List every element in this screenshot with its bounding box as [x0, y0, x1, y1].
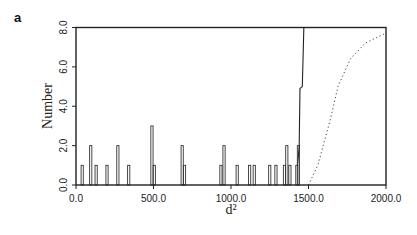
y-axis-title: Number: [40, 83, 55, 129]
histogram-bar: [283, 165, 285, 185]
y-tick-label: 2.0: [58, 138, 69, 152]
histogram-bar: [220, 165, 222, 185]
histogram-bars: [81, 126, 299, 185]
histogram-bar: [286, 146, 288, 185]
histogram-bar: [181, 146, 183, 185]
x-tick-label: 0.0: [69, 193, 83, 204]
histogram-bar: [253, 165, 255, 185]
y-tick-label: 4.0: [58, 99, 69, 113]
histogram-bar: [236, 165, 238, 185]
histogram-bar: [106, 165, 108, 185]
histogram-bar: [117, 146, 119, 185]
histogram-bar: [128, 165, 130, 185]
x-axis-title: d²: [225, 202, 236, 217]
histogram-bar: [95, 165, 97, 185]
y-tick-label: 0.0: [58, 178, 69, 192]
histogram-bar: [223, 146, 225, 185]
y-tick-label: 8.0: [58, 20, 69, 34]
histogram-bar: [289, 165, 291, 185]
histogram-bar: [153, 165, 155, 185]
histogram-bar: [269, 165, 271, 185]
histogram-bar: [183, 165, 185, 185]
histogram-bar: [275, 165, 277, 185]
x-tick-label: 1500.0: [293, 193, 324, 204]
y-axis-ticks: 0.02.04.06.08.0: [58, 20, 76, 192]
histogram-bar: [151, 126, 153, 185]
plot-frame: [76, 28, 386, 186]
observed-cumulative-line: [298, 28, 304, 166]
histogram-bar: [249, 165, 251, 185]
histogram-bar: [81, 165, 83, 185]
x-tick-label: 2000.0: [371, 193, 402, 204]
expected-distribution-curve: [309, 33, 386, 185]
histogram-chart: 0.0500.01000.01500.02000.0 0.02.04.06.08…: [0, 0, 417, 235]
y-tick-label: 6.0: [58, 59, 69, 73]
histogram-bar: [90, 146, 92, 185]
x-tick-label: 500.0: [141, 193, 166, 204]
